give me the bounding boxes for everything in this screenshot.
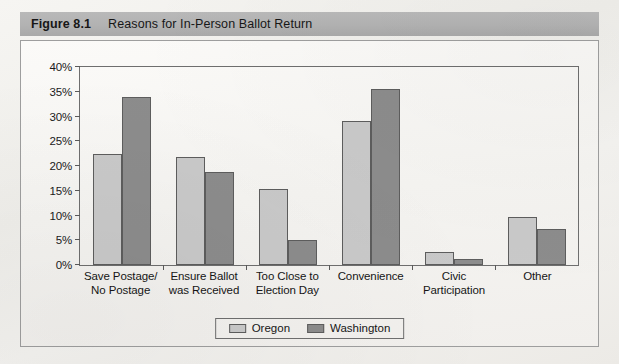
x-axis-category-label: CivicParticipation: [412, 270, 495, 310]
bar-oregon: [508, 217, 537, 266]
bar-washington: [454, 259, 483, 265]
bar-group: [163, 67, 246, 265]
x-axis-category-line: Participation: [412, 284, 495, 298]
figure-frame: 0%5%10%15%20%25%30%35%40% Save Postage/N…: [20, 40, 599, 347]
bar-oregon: [93, 154, 122, 265]
y-axis-tick-label: 10%: [50, 210, 72, 222]
y-axis-tick-label: 0%: [56, 259, 72, 271]
bar-group: [329, 67, 412, 265]
bar-group: [412, 67, 495, 265]
x-axis-category-line: No Postage: [79, 284, 162, 298]
x-axis-category-line: was Received: [162, 284, 245, 298]
legend-item-oregon: Oregon: [229, 322, 290, 334]
y-axis-tick-label: 30%: [50, 111, 72, 123]
chart-legend: OregonWashington: [215, 318, 405, 339]
legend-label: Oregon: [252, 322, 290, 334]
bar-oregon: [342, 121, 371, 265]
y-axis-tick-label: 15%: [50, 185, 72, 197]
plot-region: 0%5%10%15%20%25%30%35%40%: [79, 66, 579, 266]
x-axis-category-line: Too Close to: [246, 270, 329, 284]
figure-title: Reasons for In-Person Ballot Return: [108, 17, 312, 31]
x-axis-category-line: Convenience: [329, 270, 412, 284]
legend-item-washington: Washington: [307, 322, 390, 334]
x-axis-category-label: Other: [496, 270, 579, 310]
bar-washington: [205, 172, 234, 265]
x-axis-category-line: Save Postage/: [79, 270, 162, 284]
y-axis-tick-label: 35%: [50, 86, 72, 98]
chart-area: 0%5%10%15%20%25%30%35%40% Save Postage/N…: [21, 41, 598, 346]
figure-number: Figure 8.1: [31, 17, 91, 31]
y-axis-tick-label: 40%: [50, 61, 72, 73]
legend-label: Washington: [330, 322, 390, 334]
x-axis-category-label: Too Close toElection Day: [246, 270, 329, 310]
bar-washington: [288, 240, 317, 265]
bar-groups: [80, 67, 578, 265]
legend-swatch: [229, 324, 246, 333]
bar-washington: [537, 229, 566, 265]
bar-oregon: [176, 157, 205, 265]
y-axis-tick-label: 5%: [56, 234, 72, 246]
x-axis-category-line: Election Day: [246, 284, 329, 298]
figure-page: Figure 8.1 Reasons for In-Person Ballot …: [0, 0, 619, 364]
x-axis-category-label: Convenience: [329, 270, 412, 310]
x-axis-category-line: Other: [496, 270, 579, 284]
x-axis-category-label: Ensure Ballotwas Received: [162, 270, 245, 310]
bar-group: [246, 67, 329, 265]
bar-washington: [122, 97, 151, 265]
bar-oregon: [259, 189, 288, 265]
x-axis-category-line: Ensure Ballot: [162, 270, 245, 284]
y-axis-tick-label: 25%: [50, 135, 72, 147]
bar-oregon: [425, 252, 454, 265]
legend-swatch: [307, 324, 324, 333]
x-axis-category-label: Save Postage/No Postage: [79, 270, 162, 310]
bar-group: [495, 67, 578, 265]
y-axis-tick-label: 20%: [50, 160, 72, 172]
bar-washington: [371, 89, 400, 265]
x-axis-category-line: Civic: [412, 270, 495, 284]
bar-group: [80, 67, 163, 265]
figure-title-bar: Figure 8.1 Reasons for In-Person Ballot …: [20, 12, 599, 36]
x-axis-labels: Save Postage/No PostageEnsure Ballotwas …: [79, 270, 579, 310]
